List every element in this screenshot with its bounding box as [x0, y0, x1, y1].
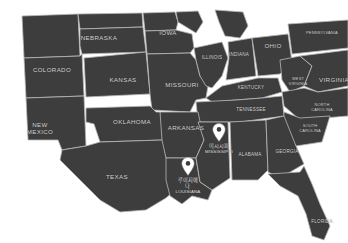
marker-louisiana-label-ko: 루이지애나	[178, 177, 199, 189]
us-states-map[interactable]	[0, 0, 348, 243]
marker-louisiana-label: 루이지애나LOUISIANA	[176, 177, 201, 196]
marker-louisiana-label-en: LOUISIANA	[176, 189, 201, 195]
state-shape-new-mexico[interactable]	[26, 96, 86, 150]
marker-mississippi-label-en: MISSISSIPPI	[205, 149, 233, 155]
state-shape-kansas[interactable]	[84, 52, 150, 97]
state-shape-arkansas[interactable]	[158, 112, 204, 158]
state-shape-alabama[interactable]	[230, 120, 268, 180]
map-pin-icon[interactable]	[181, 157, 195, 176]
marker-louisiana[interactable]: 루이지애나LOUISIANA	[181, 157, 195, 176]
state-shape-texas[interactable]	[60, 140, 180, 212]
state-shape-colorado[interactable]	[24, 54, 84, 98]
state-shape-iowa[interactable]	[145, 30, 194, 54]
state-shape-indiana[interactable]	[226, 38, 256, 80]
state-shapes-group	[22, 10, 348, 240]
map-pin-icon[interactable]	[212, 123, 226, 142]
state-shape-minnesota[interactable]	[143, 12, 178, 31]
marker-mississippi-label: 미시시피MISSISSIPPI	[205, 143, 233, 155]
state-shape-pennsylvania[interactable]	[288, 20, 348, 54]
state-shape-nebraska[interactable]	[80, 27, 146, 54]
state-shape-michigan[interactable]	[215, 10, 248, 38]
state-shape-south-dakota[interactable]	[78, 13, 143, 29]
state-shape-florida[interactable]	[268, 166, 330, 240]
state-shape-wyoming[interactable]	[22, 14, 80, 58]
marker-mississippi[interactable]: 미시시피MISSISSIPPI	[212, 123, 226, 142]
state-shape-wisconsin[interactable]	[176, 11, 203, 33]
state-shape-oklahoma[interactable]	[86, 106, 162, 142]
map-screenshot: COLORADONEBRASKAKANSASIOWAMISSOURIILLINO…	[0, 0, 348, 243]
